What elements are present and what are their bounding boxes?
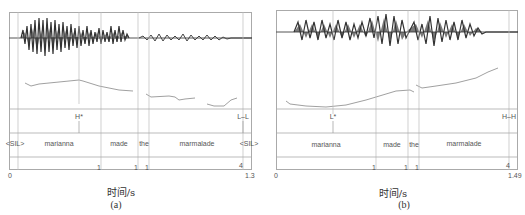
word-label: marianna [44, 140, 73, 147]
word-label: marianna [311, 141, 340, 148]
break-label: 1 [134, 164, 138, 171]
break-label: 1 [145, 164, 149, 171]
break-label: 1 [97, 164, 101, 171]
break-label: 1 [404, 164, 408, 171]
tone-label: H–H [502, 113, 516, 120]
word-label: the [409, 141, 419, 148]
word-label: marmalade [179, 140, 214, 147]
word-label: marmalade [446, 140, 481, 147]
tone-label: L–L [237, 113, 249, 120]
x-axis-label: 时间/s [379, 185, 408, 200]
panel-b: L* H–H marianna made the marmalade 1 1 1… [276, 10, 518, 182]
break-label: 4 [239, 162, 243, 169]
word-label: <SIL> [6, 140, 25, 147]
break-label: 1 [415, 164, 419, 171]
word-label: <SIL> [240, 140, 259, 147]
x-end-tick: 1.49 [508, 172, 522, 179]
panel-a: H* L–L <SIL> marianna made the marmalade… [9, 12, 252, 182]
tone-label: L* [330, 113, 337, 120]
break-label: 1 [372, 164, 376, 171]
panel-caption: (a) [110, 199, 121, 210]
word-label: the [139, 140, 149, 147]
tone-label: H* [75, 113, 83, 120]
x-axis-label: 时间/s [107, 184, 136, 199]
x-start-tick: 0 [8, 172, 12, 179]
x-end-tick: 1.3 [245, 172, 255, 179]
panel-caption: (b) [398, 199, 410, 210]
x-start-tick: 0 [274, 172, 278, 179]
word-label: made [110, 140, 128, 147]
word-label: made [383, 141, 401, 148]
break-label: 4 [506, 162, 510, 169]
